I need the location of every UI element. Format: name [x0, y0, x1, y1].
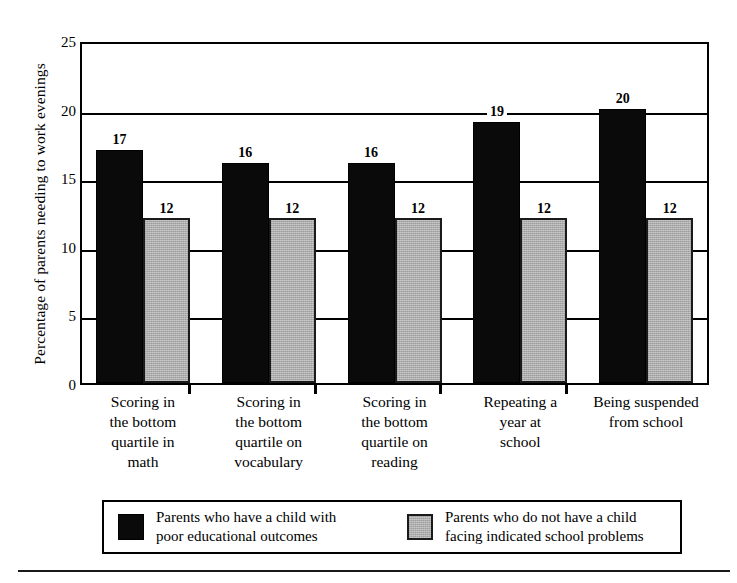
bar-value-label: 12: [282, 202, 302, 216]
bar: 16: [222, 163, 269, 383]
x-category-label-line: Scoring in: [324, 392, 466, 412]
x-category-label: Repeating ayear atschool: [449, 392, 591, 452]
x-category-label: Being suspendedfrom school: [575, 392, 717, 432]
plot-area: 17121612161219122012: [80, 42, 709, 385]
bar-value-label: 12: [534, 202, 554, 216]
x-category-label-line: the bottom: [72, 412, 214, 432]
x-category-label-line: Scoring in: [198, 392, 340, 412]
x-category-label-line: the bottom: [324, 412, 466, 432]
x-category-label-line: Repeating a: [449, 392, 591, 412]
bar: 12: [395, 218, 442, 383]
y-tick-label: 10: [42, 241, 76, 256]
x-category-label: Scoring inthe bottomquartile inmath: [72, 392, 214, 473]
x-category-label-line: reading: [324, 452, 466, 472]
legend-swatch-dark-icon: [118, 514, 144, 540]
y-tick-label: 5: [42, 309, 76, 324]
bar-chart-figure: Percentage of parents needing to work ev…: [0, 0, 737, 583]
bar-value-label: 12: [408, 202, 428, 216]
bar: 20: [599, 109, 646, 383]
legend-swatch-light-icon: [407, 514, 433, 540]
x-category-label-line: school: [449, 432, 591, 452]
bar-value-label: 12: [157, 202, 177, 216]
legend-entry-dark: Parents who have a child with poor educa…: [118, 508, 336, 546]
bar: 12: [520, 218, 567, 383]
y-tick-label: 20: [42, 104, 76, 119]
x-category-label-line: from school: [575, 412, 717, 432]
bar-value-label: 12: [660, 202, 680, 216]
y-axis-tick-labels: 0510152025: [40, 0, 76, 583]
y-tick-label: 0: [42, 378, 76, 393]
x-category-label-line: the bottom: [198, 412, 340, 432]
bar-value-label: 16: [361, 146, 381, 160]
x-category-label-line: Being suspended: [575, 392, 717, 412]
legend-entry-light: Parents who do not have a child facing i…: [407, 508, 644, 546]
bar: 12: [143, 218, 190, 383]
x-category-label: Scoring inthe bottomquartile onreading: [324, 392, 466, 473]
bar-value-label: 17: [110, 133, 130, 147]
bar: 16: [348, 163, 395, 383]
x-category-label-line: quartile in: [72, 432, 214, 452]
bar: 12: [269, 218, 316, 383]
x-category-label-line: quartile on: [198, 432, 340, 452]
y-tick-label: 15: [42, 172, 76, 187]
x-axis-category-labels: Scoring inthe bottomquartile inmathScori…: [80, 392, 709, 488]
bar: 19: [473, 122, 520, 383]
x-category-label-line: Scoring in: [72, 392, 214, 412]
y-tick-label: 25: [42, 35, 76, 50]
bar: 17: [96, 150, 143, 383]
x-category-label: Scoring inthe bottomquartile onvocabular…: [198, 392, 340, 473]
bar-value-label: 19: [487, 105, 507, 119]
x-category-label-line: vocabulary: [198, 452, 340, 472]
x-category-label-line: year at: [449, 412, 591, 432]
chart-legend: Parents who have a child with poor educa…: [102, 500, 682, 554]
legend-label-dark: Parents who have a child with poor educa…: [156, 508, 336, 546]
bar-value-label: 20: [613, 92, 633, 106]
bar-value-label: 16: [235, 146, 255, 160]
x-category-label-line: quartile on: [324, 432, 466, 452]
x-category-label-line: math: [72, 452, 214, 472]
legend-label-light: Parents who do not have a child facing i…: [445, 508, 644, 546]
footer-divider: [18, 570, 730, 572]
bar: 12: [646, 218, 693, 383]
plot-inner: 17121612161219122012: [82, 44, 707, 383]
